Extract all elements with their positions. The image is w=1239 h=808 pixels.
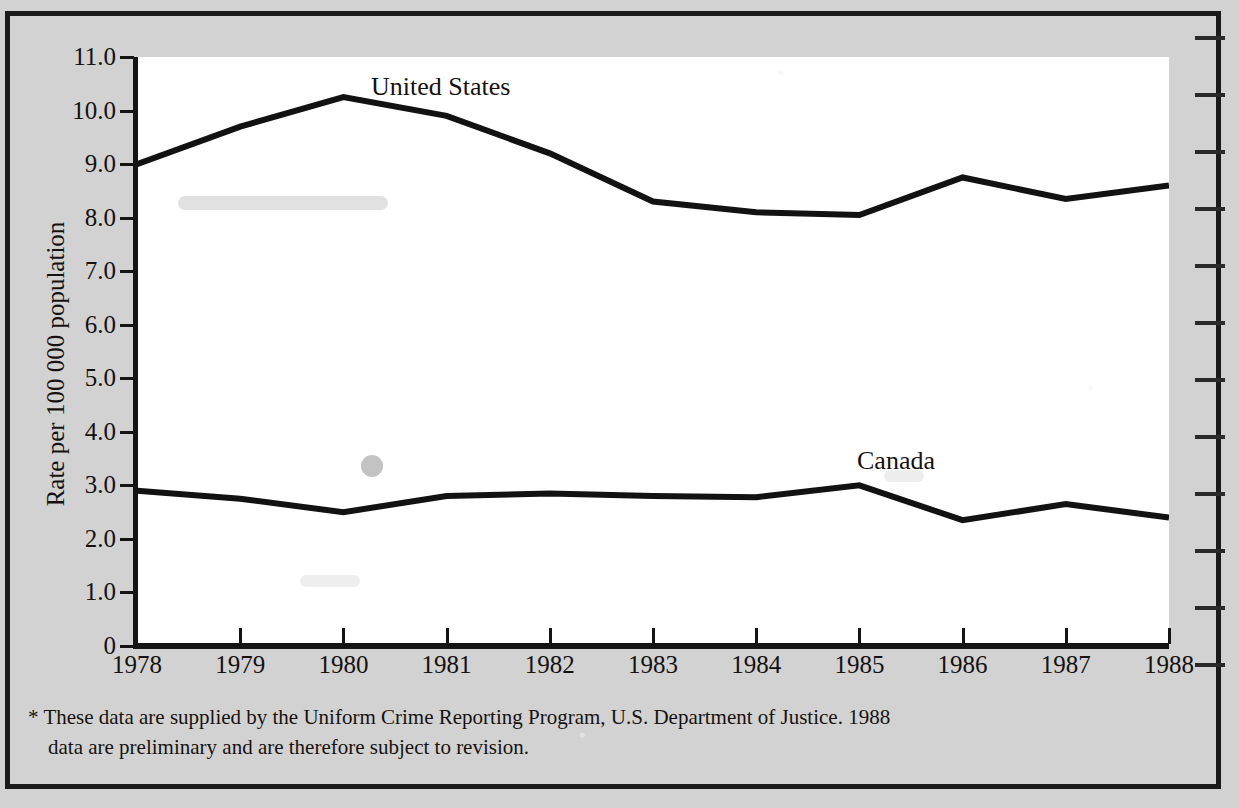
page-margin-tick	[1195, 321, 1225, 325]
line-series-canada	[137, 485, 1169, 520]
y-axis-tick	[120, 56, 134, 59]
plot-area	[137, 57, 1169, 646]
x-axis-tick-label: 1981	[392, 652, 502, 677]
series-label-united-states: United States	[371, 72, 510, 102]
x-axis-tick-label: 1982	[495, 652, 605, 677]
y-axis-tick	[120, 217, 134, 220]
x-axis-tick-label: 1979	[185, 652, 295, 677]
y-axis-tick	[120, 484, 134, 487]
footnote: * These data are supplied by the Uniform…	[28, 702, 1128, 763]
y-axis-tick	[120, 163, 134, 166]
page-margin-tick	[1195, 36, 1225, 40]
y-axis-line	[133, 57, 138, 649]
series-layer	[137, 57, 1169, 646]
x-axis-tick	[858, 628, 861, 644]
x-axis-tick	[1065, 628, 1068, 644]
y-axis-tick-label: 10.0	[50, 98, 116, 123]
page-margin-tick	[1195, 492, 1225, 496]
scan-smudge	[300, 575, 360, 587]
x-axis-tick	[755, 628, 758, 644]
y-axis-tick-label: 1.0	[50, 579, 116, 604]
footnote-line-1: * These data are supplied by the Uniform…	[28, 705, 890, 729]
x-axis-tick	[549, 628, 552, 644]
x-axis-tick	[962, 628, 965, 644]
page-margin-tick	[1195, 264, 1225, 268]
y-axis-tick	[120, 538, 134, 541]
x-axis-tick-label: 1987	[1011, 652, 1121, 677]
page-margin-tick	[1195, 150, 1225, 154]
x-axis-tick-label: 1983	[598, 652, 708, 677]
page-margin-tick	[1195, 549, 1225, 553]
x-axis-tick	[342, 628, 345, 644]
x-axis-tick-label: 1986	[908, 652, 1018, 677]
y-axis-tick	[120, 431, 134, 434]
page-margin-tick	[1195, 378, 1225, 382]
page-margin-tick	[1195, 606, 1225, 610]
x-axis-tick-label: 1978	[82, 652, 192, 677]
x-axis-tick	[652, 628, 655, 644]
chart-page: 11.010.09.08.07.06.05.04.03.02.01.00 197…	[0, 0, 1239, 808]
x-axis-tick	[1168, 628, 1171, 644]
x-axis-tick-label: 1980	[288, 652, 398, 677]
scan-smudge	[884, 470, 924, 482]
footnote-marker: *	[28, 705, 39, 729]
y-axis-tick-label: 11.0	[50, 44, 116, 69]
scan-smudge	[361, 455, 383, 477]
y-axis-tick	[120, 270, 134, 273]
y-axis-tick	[120, 324, 134, 327]
page-margin-tick	[1195, 93, 1225, 97]
y-axis-title: Rate per 100 000 population	[42, 214, 70, 514]
y-axis-tick-label: 9.0	[50, 151, 116, 176]
y-axis-tick	[120, 110, 134, 113]
scan-smudge	[178, 196, 388, 210]
x-axis-tick	[239, 628, 242, 644]
y-axis-tick-label: 2.0	[50, 526, 116, 551]
page-margin-tick	[1195, 207, 1225, 211]
footnote-text-line-1: These data are supplied by the Uniform C…	[43, 705, 890, 729]
y-axis-tick	[120, 591, 134, 594]
page-margin-tick	[1195, 663, 1225, 667]
x-axis-line	[133, 643, 1169, 649]
y-axis-tick	[120, 645, 134, 648]
x-axis-tick	[446, 628, 449, 644]
x-axis-tick-label: 1984	[701, 652, 811, 677]
y-axis-tick	[120, 377, 134, 380]
page-margin-tick	[1195, 435, 1225, 439]
footnote-text-line-2: data are preliminary and are therefore s…	[28, 732, 1128, 762]
x-axis-tick-label: 1985	[804, 652, 914, 677]
